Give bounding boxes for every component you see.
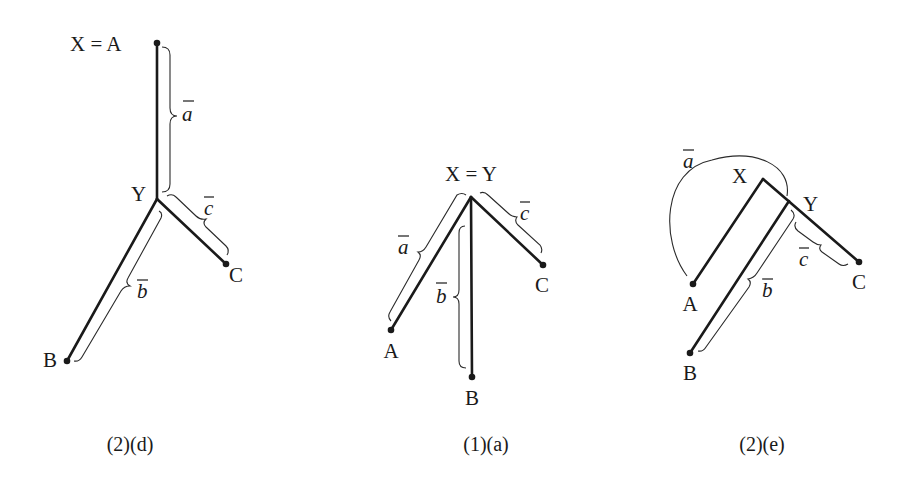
label-x-equals-a: X = A [70, 32, 122, 56]
svg-text:b: b [762, 278, 773, 302]
svg-text:c: c [799, 247, 809, 271]
label-a: A [383, 339, 399, 363]
segment-label-a: a [683, 149, 694, 173]
brace-b [453, 226, 466, 368]
brace-c [167, 195, 228, 255]
brace-b [74, 211, 162, 361]
segment-label-b: b [137, 279, 148, 303]
segment-label-b: b [762, 278, 773, 302]
diagram-2e: X Y A B C a b c (2)(e) [670, 149, 866, 456]
node-c [856, 259, 863, 266]
caption-2e: (2)(e) [739, 433, 785, 456]
figure-canvas: X = A Y C B a c b (2)(d) X = Y A [0, 0, 911, 477]
node-a [388, 327, 395, 334]
segment-label-c: c [799, 247, 809, 271]
segment-label-a: a [398, 235, 409, 259]
label-y: Y [803, 192, 818, 216]
label-c: C [229, 263, 243, 287]
diagram-1a: X = Y A B C a b c (1)(a) [383, 162, 549, 456]
label-b: B [43, 348, 57, 372]
label-b: B [683, 361, 697, 385]
segment-label-a: a [182, 101, 194, 126]
svg-text:a: a [182, 102, 193, 126]
node-a [690, 281, 697, 288]
label-c: C [535, 273, 549, 297]
svg-text:c: c [204, 196, 214, 220]
caption-2d: (2)(d) [107, 433, 154, 456]
segment-label-b: b [436, 283, 447, 308]
node-c [540, 262, 547, 269]
svg-text:a: a [683, 149, 694, 173]
edge-c [157, 199, 226, 264]
node-b [469, 374, 476, 381]
label-c: C [852, 270, 866, 294]
svg-text:a: a [398, 235, 409, 259]
label-y: Y [131, 182, 146, 206]
brace-b [698, 210, 794, 351]
edge-b [471, 197, 472, 377]
brace-c [480, 192, 542, 253]
edge-b [690, 201, 789, 353]
edge-c [471, 197, 543, 265]
svg-text:b: b [436, 284, 447, 308]
label-b: B [465, 386, 479, 410]
arc-a [670, 156, 788, 276]
svg-text:c: c [520, 201, 530, 225]
edge-xa [693, 179, 763, 284]
node-b [687, 350, 694, 357]
label-x: X [732, 164, 747, 188]
brace-a [162, 47, 177, 192]
node-a [154, 40, 161, 47]
node-b [64, 358, 71, 365]
label-x-equals-y: X = Y [445, 162, 497, 186]
diagram-2d: X = A Y C B a c b (2)(d) [43, 32, 243, 456]
label-a: A [682, 292, 698, 316]
caption-1a: (1)(a) [463, 433, 509, 456]
svg-text:b: b [137, 279, 148, 303]
segment-label-c: c [204, 196, 214, 220]
segment-label-c: c [520, 201, 530, 225]
